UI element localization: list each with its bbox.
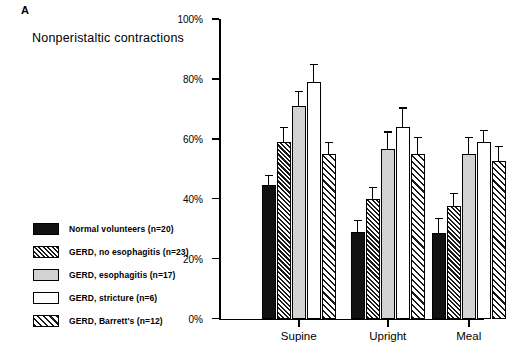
legend-item: GERD, stricture (n=6) [33, 286, 223, 309]
legend-swatch-icon [33, 223, 59, 235]
y-axis-tick: 100% [212, 18, 219, 20]
y-axis-tick: 80% [212, 78, 219, 80]
legend-item-label: GERD, stricture (n=6) [69, 293, 157, 303]
legend-item-label: GERD, no esophagitis (n=23) [69, 247, 189, 257]
error-bar [495, 146, 503, 161]
chart-plot-area: 0%20%40%60%80%100% SupineUprightMeal [219, 19, 484, 320]
error-bar [399, 107, 407, 126]
legend-item: GERD, esophagitis (n=17) [33, 263, 223, 286]
error-bar [354, 220, 362, 232]
bar [411, 154, 425, 319]
y-axis-tick: 40% [212, 198, 219, 200]
error-bar [384, 131, 392, 149]
y-axis-tick: 20% [212, 258, 219, 260]
y-axis [219, 19, 221, 320]
error-bar [450, 193, 458, 206]
x-axis-tick [468, 320, 470, 327]
y-axis-tick-label: 80% [183, 73, 203, 84]
y-axis-tick: 0% [212, 318, 219, 320]
bar [447, 206, 461, 318]
chart-title: Nonperistaltic contractions [32, 31, 184, 45]
y-axis-tick-label: 20% [183, 253, 203, 264]
error-bar [480, 130, 488, 142]
bar [277, 142, 291, 319]
legend-item-label: GERD, Barrett's (n=12) [69, 316, 163, 326]
x-axis-tick [387, 320, 389, 327]
x-axis-tick [298, 320, 300, 327]
y-axis-tick-label: 100% [177, 14, 203, 25]
legend-swatch-icon [33, 246, 59, 258]
bar [292, 106, 306, 319]
error-bar [280, 127, 288, 142]
bar [322, 154, 336, 319]
y-axis-tick-label: 60% [183, 133, 203, 144]
y-axis-tick: 60% [212, 138, 219, 140]
error-bar [265, 175, 273, 185]
legend-swatch-icon [33, 315, 59, 327]
y-axis-tick-label: 0% [189, 313, 203, 324]
bar [432, 233, 446, 318]
error-bar [295, 91, 303, 106]
bar [462, 154, 476, 319]
legend-item: Normal volunteers (n=20) [33, 217, 223, 240]
bar [381, 149, 395, 318]
legend-item-label: GERD, esophagitis (n=17) [69, 270, 176, 280]
bar [307, 82, 321, 319]
bar [351, 232, 365, 319]
y-axis-tick-label: 40% [183, 193, 203, 204]
error-bar [414, 137, 422, 153]
bar [477, 142, 491, 319]
legend-swatch-icon [33, 292, 59, 304]
bar [396, 127, 410, 319]
x-axis-group-label: Meal [456, 330, 481, 342]
bar [262, 185, 276, 318]
error-bar [310, 64, 318, 82]
error-bar [369, 187, 377, 199]
bar [492, 161, 506, 318]
bar [366, 199, 380, 319]
x-axis-group-label: Supine [281, 330, 317, 342]
x-axis-group-label: Upright [369, 330, 406, 342]
panel-label: A [21, 4, 29, 16]
error-bar [325, 142, 333, 154]
legend-item-label: Normal volunteers (n=20) [69, 224, 174, 234]
error-bar [465, 137, 473, 153]
x-axis [219, 319, 484, 321]
error-bar [435, 218, 443, 233]
legend-swatch-icon [33, 269, 59, 281]
